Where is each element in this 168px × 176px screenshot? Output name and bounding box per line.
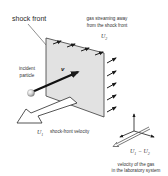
u2-subscript: 2 [105,36,107,41]
incident-particle-label-line2: particle [13,74,41,79]
v-label: v [61,66,64,72]
u1-subscript: 1 [41,132,43,137]
shock-front-label: shock front [12,15,46,22]
u1-minus-u2-sub2: 2 [148,151,150,156]
shock-front-velocity-arrow [17,97,77,123]
incident-particle-label: incident particle [13,67,41,78]
gas-velocity-lab-label-line1: velocity of the gas [104,163,168,168]
gas-velocity-lab-label: velocity of the gas in the laboratory sy… [104,163,168,174]
u1-label: U1 [37,129,43,137]
u2-label: U2 [101,33,107,41]
shock-front-leader-line [28,24,47,46]
u1-minus-u2-label: U1 − U2 [130,148,150,156]
lab-frame-axes [113,114,154,147]
gas-streaming-label-line2: from the shock front [78,24,136,29]
gas-streaming-arrows-right [107,58,116,112]
u1-minus-u2-operator: − U [136,148,147,154]
gas-velocity-line-a [116,127,149,144]
incident-particle [27,89,34,96]
incident-particle-label-line1: incident [13,67,41,72]
shock-front-diagram: shock front gas streaming away from the … [0,0,168,176]
gas-streaming-label: gas streaming away from the shock front [78,17,136,28]
gas-streaming-label-line1: gas streaming away [78,17,136,22]
gas-velocity-lab-label-line2: in the laboratory system [104,169,168,174]
shock-front-velocity-label: shock-front velocity [50,130,89,135]
